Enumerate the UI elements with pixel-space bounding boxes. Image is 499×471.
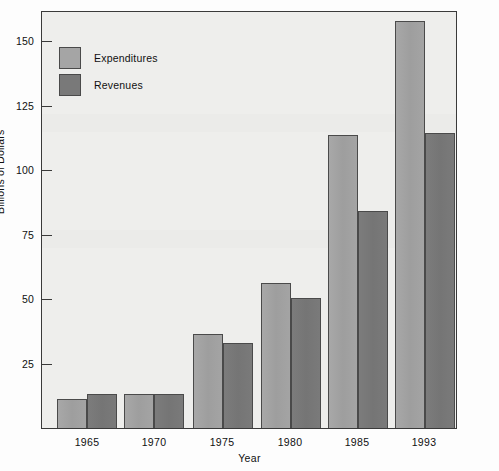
bar-1993-revenues bbox=[425, 133, 455, 429]
x-tick-label-1985: 1985 bbox=[329, 436, 385, 448]
bar-1965-revenues bbox=[87, 394, 117, 429]
bar-1980-revenues bbox=[291, 298, 321, 429]
y-tick-label-25: 25 bbox=[6, 358, 34, 370]
bar-1985-expenditures bbox=[328, 135, 358, 429]
bar-chart-figure: Billions of Dollars 150 125 100 75 50 25… bbox=[0, 0, 499, 471]
y-tick-mark-25 bbox=[42, 364, 52, 365]
x-tick-label-1980: 1980 bbox=[262, 436, 318, 448]
scan-artifact-band bbox=[42, 114, 456, 132]
legend-swatch-revenues bbox=[59, 74, 81, 96]
legend-label-expenditures: Expenditures bbox=[94, 52, 158, 64]
plot-area bbox=[41, 11, 457, 429]
x-axis-title: Year bbox=[0, 452, 499, 464]
y-tick-label-150: 150 bbox=[6, 35, 34, 47]
y-tick-mark-75 bbox=[42, 235, 52, 236]
bar-1970-revenues bbox=[154, 394, 184, 429]
y-tick-mark-125 bbox=[42, 106, 52, 107]
scan-artifact-band bbox=[42, 230, 456, 248]
x-tick-label-1975: 1975 bbox=[194, 436, 250, 448]
x-tick-label-1970: 1970 bbox=[126, 436, 182, 448]
bar-1970-expenditures bbox=[124, 394, 154, 429]
y-tick-label-125: 125 bbox=[6, 100, 34, 112]
bar-1965-expenditures bbox=[57, 399, 87, 429]
y-tick-mark-100 bbox=[42, 170, 52, 171]
bar-1985-revenues bbox=[358, 211, 388, 429]
y-tick-label-50: 50 bbox=[6, 293, 34, 305]
y-tick-label-100: 100 bbox=[6, 164, 34, 176]
x-tick-label-1993: 1993 bbox=[396, 436, 452, 448]
x-tick-label-1965: 1965 bbox=[59, 436, 115, 448]
legend-label-revenues: Revenues bbox=[94, 79, 143, 91]
bar-1975-revenues bbox=[223, 343, 253, 429]
bar-1975-expenditures bbox=[193, 334, 223, 429]
legend-swatch-expenditures bbox=[59, 47, 81, 69]
bar-1993-expenditures bbox=[395, 21, 425, 429]
y-tick-label-75: 75 bbox=[6, 229, 34, 241]
y-tick-mark-50 bbox=[42, 299, 52, 300]
bar-1980-expenditures bbox=[261, 283, 291, 429]
y-tick-mark-150 bbox=[42, 41, 52, 42]
